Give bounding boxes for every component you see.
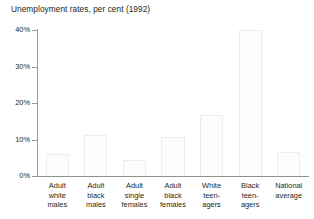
plot-area (38, 30, 308, 176)
y-tick-label: 0% (3, 172, 30, 180)
bar (123, 160, 146, 176)
bar (161, 137, 184, 176)
y-tick-mark (32, 176, 38, 177)
x-axis-category-label: National average (269, 181, 308, 200)
bar (277, 152, 300, 176)
y-tick-label: 10% (3, 136, 30, 144)
y-tick-label: 40% (3, 26, 30, 34)
y-tick-label: 30% (3, 63, 30, 71)
x-axis-category-label: Adult single females (115, 181, 154, 210)
x-axis-category-label: Adult black females (154, 181, 193, 210)
y-tick-label: 20% (3, 99, 30, 107)
bar (84, 135, 107, 176)
x-axis-line (37, 176, 309, 177)
x-axis-category-label: Black teen- agers (231, 181, 270, 210)
chart-title: Unemployment rates, per cent (1992) (11, 4, 150, 14)
x-axis-category-label: White teen- agers (192, 181, 231, 210)
x-axis-category-label: Adult white males (38, 181, 77, 210)
bar (200, 115, 223, 176)
x-axis-category-label: Adult black males (77, 181, 116, 210)
bar (239, 30, 262, 176)
unemployment-bar-chart: Unemployment rates, per cent (1992) 40%3… (0, 0, 314, 219)
bar (46, 154, 69, 176)
